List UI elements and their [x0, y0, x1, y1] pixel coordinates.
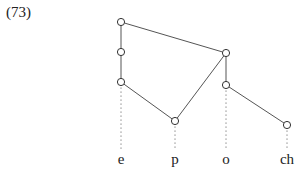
tree-node-circle [117, 18, 124, 25]
segment-label-p: p [171, 151, 179, 167]
tree-edge [124, 84, 172, 119]
tree-node-circle [171, 117, 178, 124]
tree-edge [177, 56, 224, 118]
tree-node-circle [283, 121, 290, 128]
tree-node-circle [117, 78, 124, 85]
segment-label-ch: ch [280, 151, 295, 167]
segment-label-e: e [118, 151, 125, 167]
segment-label-o: o [222, 151, 230, 167]
tree-node-circle [222, 49, 229, 56]
feature-tree-diagram: epoch [0, 0, 297, 170]
tree-node-circle [117, 48, 124, 55]
tree-edge [124, 23, 222, 52]
tree-node-circle [222, 81, 229, 88]
tree-edge [229, 87, 284, 123]
